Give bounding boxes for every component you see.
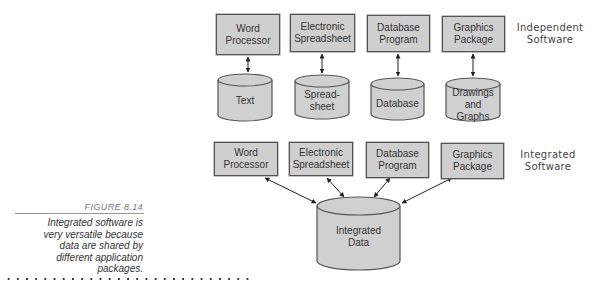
independent-word-processor-box: WordProcessor: [216, 14, 280, 55]
figure-number: FIGURE 8.14: [85, 202, 143, 212]
box-label: Package: [454, 34, 493, 45]
integrated-graphics-package-box: GraphicsPackage: [441, 143, 504, 179]
independent-software-label: IndependentSoftware: [508, 22, 592, 46]
box-label: Graphics: [452, 149, 492, 160]
label-line: Graphs: [457, 111, 490, 122]
label-line: Software: [525, 161, 571, 172]
caption-line: data are shared by: [60, 240, 143, 251]
box-label: Spreadsheet: [293, 159, 350, 170]
integrated-database-program-box: DatabaseProgram: [366, 142, 429, 178]
label-line: Data: [348, 237, 369, 248]
box-label: Graphics: [453, 22, 493, 33]
dotted-rule: [4, 276, 250, 282]
box-label: Database: [377, 22, 420, 33]
box-label: Word: [236, 23, 260, 34]
independent-graphics-package-box: GraphicsPackage: [442, 16, 505, 52]
caption-line: Integrated software is: [47, 217, 143, 228]
data-store-spreadsheet-label: Spread-sheet: [295, 87, 349, 115]
double-arrow-icon: [265, 178, 316, 203]
box-label: Electronic: [299, 147, 343, 158]
caption-line: packages.: [97, 263, 143, 274]
integrated-software-label: IntegratedSoftware: [508, 149, 588, 173]
label-line: Independent: [517, 22, 584, 33]
box-label: Spreadsheet: [294, 33, 351, 44]
data-store-text-label: Text: [218, 87, 272, 115]
label-line: Integrated: [520, 149, 575, 160]
label-line: and: [465, 99, 482, 110]
figure-caption: Integrated software is very versatile be…: [3, 217, 143, 275]
label-line: Software: [527, 34, 573, 45]
independent-spreadsheet-box: ElectronicSpreadsheet: [290, 14, 355, 52]
data-store-drawings-label: DrawingsandGraphs: [446, 88, 500, 122]
box-label: Processor: [225, 35, 270, 46]
integrated-data-label: IntegratedData: [317, 222, 400, 252]
label-line: Drawings: [452, 87, 494, 98]
box-label: Program: [379, 34, 417, 45]
double-arrow-icon: [327, 178, 344, 197]
label-line: sheet: [310, 101, 334, 112]
independent-database-program-box: DatabaseProgram: [367, 15, 430, 52]
box-label: Program: [378, 160, 416, 171]
box-label: Word: [234, 147, 258, 158]
label-line: Text: [236, 95, 254, 107]
label-line: Integrated: [336, 225, 381, 236]
label-line: Spread-: [304, 89, 340, 100]
box-label: Processor: [223, 159, 268, 170]
box-label: Database: [376, 148, 419, 159]
integrated-word-processor-box: WordProcessor: [214, 142, 278, 176]
box-label: Package: [453, 161, 492, 172]
label-line: Database: [376, 98, 419, 110]
double-arrow-icon: [402, 178, 452, 203]
box-label: Electronic: [301, 21, 345, 32]
independent-connectors: [248, 54, 473, 76]
caption-line: very versatile because: [44, 229, 144, 240]
caption-line: different application: [56, 252, 143, 263]
data-store-database-label: Database: [371, 90, 424, 118]
double-arrow-icon: [374, 178, 390, 197]
integrated-spreadsheet-box: ElectronicSpreadsheet: [289, 142, 353, 176]
caption-divider: [15, 213, 144, 214]
